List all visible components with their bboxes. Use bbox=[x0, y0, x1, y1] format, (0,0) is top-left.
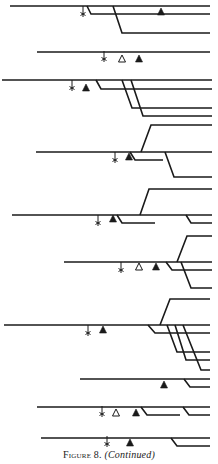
filled-triangle-marker-icon bbox=[158, 8, 165, 15]
lineage-group bbox=[36, 125, 212, 177]
asterisk-marker-icon bbox=[86, 325, 91, 336]
branch-line bbox=[171, 438, 210, 446]
caption-note: (Continued) bbox=[104, 449, 155, 460]
branch-line bbox=[184, 379, 210, 387]
filled-triangle-marker-icon bbox=[127, 439, 134, 446]
caption-label: Figure 8. bbox=[63, 449, 102, 460]
asterisk-marker-icon bbox=[96, 215, 101, 226]
open-triangle-marker-icon bbox=[136, 263, 143, 270]
branch-line bbox=[140, 189, 212, 215]
lineage-group bbox=[37, 51, 210, 62]
branch-line bbox=[165, 152, 212, 177]
lineage-group bbox=[10, 6, 210, 33]
asterisk-marker-icon bbox=[70, 80, 75, 91]
asterisk-marker-icon bbox=[113, 152, 118, 163]
filled-triangle-marker-icon bbox=[161, 381, 168, 388]
branch-line bbox=[87, 6, 210, 14]
lineage-group bbox=[41, 436, 210, 447]
lineage-group bbox=[37, 406, 210, 417]
lineage-group bbox=[64, 236, 212, 288]
filled-triangle-marker-icon bbox=[100, 326, 107, 333]
lineage-group bbox=[80, 379, 210, 388]
branch-line bbox=[130, 152, 163, 160]
lineage-group bbox=[2, 80, 212, 116]
branch-line bbox=[181, 262, 212, 288]
branch-line bbox=[175, 325, 210, 360]
filled-triangle-marker-icon bbox=[133, 409, 140, 416]
branch-line bbox=[148, 325, 210, 333]
filled-triangle-marker-icon bbox=[110, 215, 117, 222]
branch-line bbox=[183, 325, 210, 370]
lineage-group bbox=[12, 189, 212, 226]
branch-line bbox=[131, 80, 212, 116]
open-triangle-marker-icon bbox=[119, 55, 126, 62]
branch-line bbox=[141, 407, 180, 415]
branch-line bbox=[117, 215, 155, 223]
branch-line bbox=[141, 125, 212, 152]
branch-line bbox=[96, 80, 212, 89]
branch-line bbox=[166, 262, 212, 270]
filled-triangle-marker-icon bbox=[136, 55, 143, 62]
open-triangle-marker-icon bbox=[113, 409, 120, 416]
branching-line-diagram bbox=[0, 0, 218, 464]
branch-line bbox=[160, 299, 210, 325]
branch-line bbox=[183, 407, 210, 415]
branch-line bbox=[186, 215, 212, 223]
lineage-group bbox=[4, 299, 210, 370]
filled-triangle-marker-icon bbox=[83, 84, 90, 91]
asterisk-marker-icon bbox=[119, 262, 124, 273]
branch-line bbox=[177, 236, 212, 262]
figure-caption: Figure 8. (Continued) bbox=[0, 449, 218, 460]
asterisk-marker-icon bbox=[81, 6, 86, 17]
filled-triangle-marker-icon bbox=[153, 263, 160, 270]
